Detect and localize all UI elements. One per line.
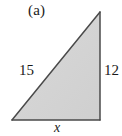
side-label-hypotenuse: 15 xyxy=(19,63,34,78)
side-label-base: x xyxy=(54,121,60,135)
side-label-vertical-leg: 12 xyxy=(104,63,119,78)
panel-label: (a) xyxy=(28,3,45,18)
figure-panel-a: (a) 15 12 x xyxy=(0,0,122,136)
